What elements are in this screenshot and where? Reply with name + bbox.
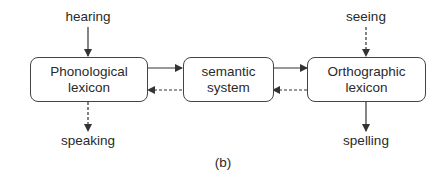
node-label-line1: Orthographic <box>327 64 405 80</box>
label-speaking: speaking <box>61 133 115 148</box>
node-phonological-lexicon: Phonological lexicon <box>30 57 148 102</box>
label-spelling: spelling <box>343 133 389 148</box>
node-orthographic-lexicon: Orthographic lexicon <box>307 57 426 102</box>
figure-caption: (b) <box>215 155 232 170</box>
node-label-line2: lexicon <box>345 80 387 96</box>
label-seeing: seeing <box>346 9 386 24</box>
label-hearing: hearing <box>65 9 110 24</box>
node-label-line2: system <box>207 80 250 96</box>
node-semantic-system: semantic system <box>183 57 274 102</box>
node-label-line2: lexicon <box>68 80 110 96</box>
node-label-line1: Phonological <box>50 64 127 80</box>
node-label-line1: semantic <box>201 64 255 80</box>
